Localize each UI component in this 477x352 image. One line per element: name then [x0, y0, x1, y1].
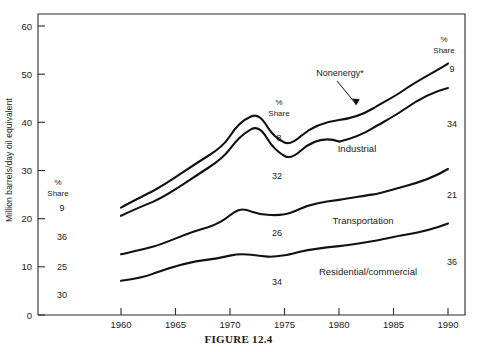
share-right-transportation: 21: [447, 190, 457, 200]
y-tick-label-20: 20: [21, 213, 32, 224]
share-mid-header: Share: [268, 109, 290, 118]
share-mid-transportation: 26: [272, 228, 282, 238]
share-right-header: Share: [433, 46, 455, 55]
line-chart: 0 10 20 30 40 50 60 1960 1965 1970 1975 …: [0, 0, 477, 332]
share-left-nonenergy: 9: [59, 203, 64, 213]
y-tick-label-40: 40: [21, 117, 32, 128]
share-group-left: % Share 9 36 25 30: [47, 178, 69, 300]
y-tick-label-60: 60: [21, 21, 32, 32]
band-label-industrial: Industrial: [338, 143, 377, 154]
share-group-mid: % Share 8 32 26 34: [268, 98, 290, 287]
annotation-nonenergy-label: Nonenergy*: [316, 68, 364, 78]
y-axis-ticks: [38, 26, 45, 315]
share-right-residential: 36: [447, 257, 457, 267]
y-tick-label-10: 10: [21, 261, 32, 272]
x-tick-label-1975: 1975: [274, 319, 295, 330]
curve-total-nonenergy: [121, 64, 448, 208]
figure-container: Million barrels/day oil equivalent 0 10 …: [0, 0, 477, 352]
share-mid-pct-symbol: %: [275, 98, 282, 107]
y-tick-label-50: 50: [21, 69, 32, 80]
curve-top-industrial: [121, 88, 448, 216]
annotation-nonenergy: Nonenergy*: [316, 68, 364, 106]
y-tick-label-0: 0: [27, 310, 32, 321]
share-mid-industrial: 32: [272, 171, 282, 181]
share-mid-residential: 34: [272, 277, 282, 287]
x-tick-label-1965: 1965: [165, 319, 186, 330]
y-tick-label-30: 30: [21, 165, 32, 176]
annotation-nonenergy-arrowhead: [352, 99, 360, 106]
share-left-transportation: 25: [57, 262, 67, 272]
annotation-nonenergy-arrow-line: [337, 81, 356, 104]
band-label-transportation: Transportation: [333, 215, 394, 226]
x-tick-label-1980: 1980: [328, 319, 349, 330]
x-axis-tick-labels: 1960 1965 1970 1975 1980 1985 1990: [110, 319, 458, 330]
share-left-header: Share: [47, 189, 69, 198]
share-mid-nonenergy: 8: [276, 133, 281, 143]
share-left-industrial: 36: [57, 232, 67, 242]
share-left-residential: 30: [57, 290, 67, 300]
x-tick-label-1960: 1960: [110, 319, 131, 330]
share-left-pct-symbol: %: [54, 178, 61, 187]
share-right-nonenergy: 9: [449, 64, 454, 74]
x-axis-ticks: [121, 308, 448, 315]
share-right-industrial: 34: [447, 119, 457, 129]
band-label-residential: Residential/commercial: [319, 266, 417, 277]
share-right-pct-symbol: %: [440, 35, 447, 44]
x-tick-label-1970: 1970: [219, 319, 240, 330]
x-tick-label-1985: 1985: [383, 319, 404, 330]
x-tick-label-1990: 1990: [437, 319, 458, 330]
y-axis-tick-labels: 0 10 20 30 40 50 60: [21, 21, 32, 321]
figure-caption: FIGURE 12.4: [0, 333, 477, 345]
